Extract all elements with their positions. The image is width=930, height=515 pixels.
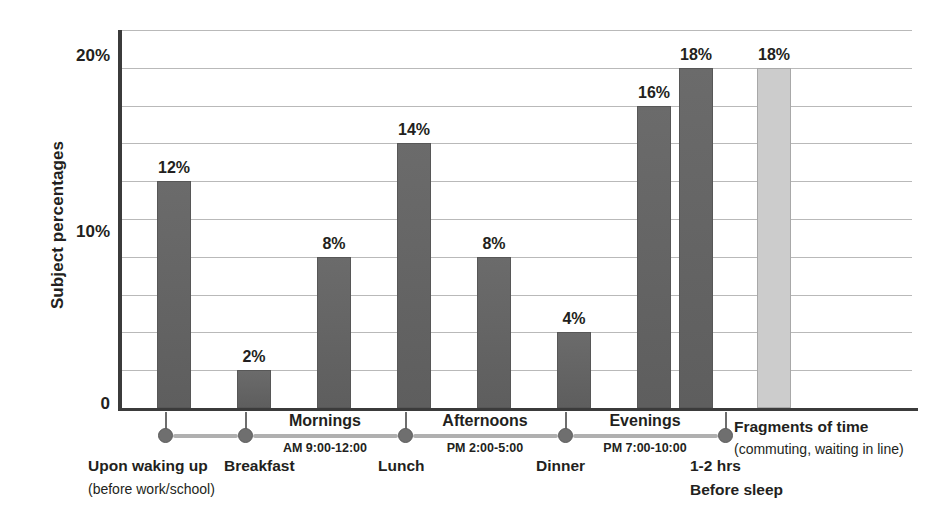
bar-fragments-of-time [757, 68, 791, 408]
period-name-afternoons: Afternoons [405, 412, 565, 430]
category-sublabel-upon-waking-up: (before work/school) [88, 481, 215, 497]
x-axis-line [118, 408, 918, 411]
bar-value-afternoons: 8% [459, 235, 529, 253]
bar-dinner [557, 332, 591, 408]
category-label-fragments-of-time: Fragments of time [734, 418, 868, 436]
bar-value-dinner: 4% [539, 310, 609, 328]
bar-value-mornings: 8% [299, 235, 369, 253]
category-label-lunch: Lunch [378, 457, 425, 475]
bar-upon-waking-up [157, 181, 191, 408]
bar-evenings [637, 106, 671, 408]
y-tick-label-10: 10% [52, 222, 110, 242]
category-label-before-sleep-2: Before sleep [690, 481, 783, 499]
gridline-6 [122, 295, 912, 296]
bar-value-upon-waking-up: 12% [139, 159, 209, 177]
gridline-20 [122, 30, 912, 31]
gridline-14 [122, 143, 912, 144]
timeline-connector-waking-breakfast [173, 434, 238, 438]
plot-area: 12% 2% 8% 14% 8% 4% 16% 18% 18% [118, 30, 918, 408]
bar-breakfast [237, 370, 271, 408]
period-time-mornings: AM 9:00-12:00 [245, 441, 405, 455]
bar-chart: Subject percentages 20% 10% 0 12% 2% 8% … [0, 0, 930, 515]
gridline-8 [122, 257, 912, 258]
timeline-connector-mornings [253, 434, 398, 438]
category-label-before-sleep-1: 1-2 hrs [690, 457, 741, 475]
category-sublabel-fragments-of-time: (commuting, waiting in line) [734, 441, 904, 457]
bar-before-sleep [679, 68, 713, 408]
bar-afternoons [477, 257, 511, 408]
bar-value-breakfast: 2% [219, 348, 289, 366]
category-label-breakfast: Breakfast [224, 457, 295, 475]
period-name-evenings: Evenings [565, 412, 725, 430]
gridline-10 [122, 219, 912, 220]
gridline-4 [122, 332, 912, 333]
timeline-connector-evenings [573, 434, 718, 438]
bar-value-before-sleep: 18% [661, 46, 731, 64]
bar-lunch [397, 143, 431, 408]
y-tick-label-20: 20% [52, 46, 110, 66]
y-tick-label-0: 0 [52, 394, 110, 414]
gridline-18 [122, 68, 912, 69]
timeline-connector-afternoons [413, 434, 558, 438]
bar-value-fragments: 18% [739, 46, 809, 64]
period-time-afternoons: PM 2:00-5:00 [405, 441, 565, 455]
timeline-dot-upon-waking-up [158, 428, 173, 443]
period-time-evenings: PM 7:00-10:00 [565, 441, 725, 455]
bar-mornings [317, 257, 351, 408]
period-name-mornings: Mornings [245, 412, 405, 430]
category-label-dinner: Dinner [536, 457, 585, 475]
gridline-16 [122, 106, 912, 107]
gridline-12 [122, 181, 912, 182]
bar-value-evenings: 16% [619, 84, 689, 102]
category-label-upon-waking-up: Upon waking up [88, 457, 208, 475]
bar-value-lunch: 14% [379, 121, 449, 139]
